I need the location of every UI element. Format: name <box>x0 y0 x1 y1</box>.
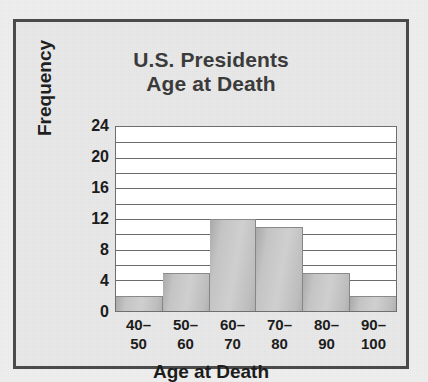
plot-area <box>115 126 397 312</box>
chart-frame: U.S. Presidents Age at Death Frequency 2… <box>13 19 409 369</box>
x-tick-label-line: 80 <box>256 335 303 354</box>
x-tick-label: 60–70 <box>209 316 256 354</box>
y-axis-tick-labels: 24 20 16 12 8 4 0 <box>71 126 109 312</box>
x-tick-label-line: 70 <box>209 335 256 354</box>
x-axis-title: Age at Death <box>16 361 406 382</box>
bar <box>350 296 396 311</box>
x-tick-label: 80–90 <box>303 316 350 354</box>
x-tick-label: 70–80 <box>256 316 303 354</box>
x-tick-label: 90–100 <box>350 316 397 354</box>
y-tick-label: 8 <box>71 241 109 259</box>
x-tick-label-line: 60– <box>209 316 256 335</box>
chart-title-line-1: U.S. Presidents <box>16 48 406 72</box>
x-tick-label: 50–60 <box>162 316 209 354</box>
x-tick-label-line: 90 <box>303 335 350 354</box>
chart-title: U.S. Presidents Age at Death <box>16 48 406 97</box>
y-tick-label: 24 <box>71 117 109 135</box>
x-tick-label-line: 50 <box>115 335 162 354</box>
bar <box>256 227 303 311</box>
y-tick-label: 0 <box>71 303 109 321</box>
x-tick-label-line: 40– <box>115 316 162 335</box>
chart-title-line-2: Age at Death <box>16 72 406 96</box>
x-tick-label: 40–50 <box>115 316 162 354</box>
x-tick-label-line: 50– <box>162 316 209 335</box>
x-tick-label-line: 60 <box>162 335 209 354</box>
bar <box>116 296 163 311</box>
x-tick-label-line: 70– <box>256 316 303 335</box>
y-tick-label: 4 <box>71 272 109 290</box>
bar <box>210 219 257 311</box>
x-axis-tick-labels: 40–5050–6060–7070–8080–9090–100 <box>115 316 397 354</box>
bar-series <box>116 127 396 311</box>
y-tick-label: 20 <box>71 148 109 166</box>
page-background: U.S. Presidents Age at Death Frequency 2… <box>0 0 428 382</box>
x-tick-label-line: 90– <box>350 316 397 335</box>
x-tick-label-line: 100 <box>350 335 397 354</box>
y-axis-title: Frequency <box>34 8 60 168</box>
bar <box>163 273 210 311</box>
x-tick-label-line: 80– <box>303 316 350 335</box>
y-tick-label: 16 <box>71 179 109 197</box>
bar <box>303 273 350 311</box>
y-tick-label: 12 <box>71 210 109 228</box>
